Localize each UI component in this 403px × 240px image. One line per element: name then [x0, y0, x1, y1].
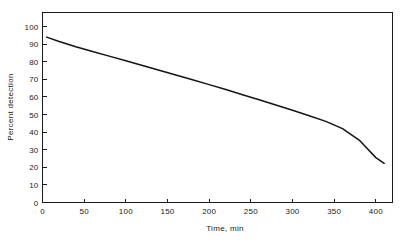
y-axis-tick-label: 60 [29, 93, 39, 102]
y-axis-tick-labels: 0102030405060708090100 [25, 23, 39, 208]
y-axis-tick-label: 90 [29, 40, 39, 49]
x-axis-title: Time, min [206, 224, 244, 233]
y-axis-tick-label: 100 [25, 23, 39, 32]
y-axis-tick-label: 30 [29, 146, 39, 155]
y-axis-ticks [43, 27, 47, 203]
x-axis-tick-labels: 050100150200250300350400 [40, 207, 383, 216]
y-axis-tick-label: 50 [29, 111, 39, 120]
x-axis-tick-label: 200 [202, 207, 216, 216]
x-axis-tick-label: 400 [369, 207, 383, 216]
x-axis-tick-label: 250 [244, 207, 258, 216]
x-axis-tick-label: 350 [327, 207, 341, 216]
y-axis-tick-label: 80 [29, 58, 39, 67]
y-axis-tick-label: 0 [34, 199, 39, 208]
data-series-group [47, 37, 385, 163]
x-axis-tick-label: 100 [119, 207, 133, 216]
y-axis-tick-label: 70 [29, 75, 39, 84]
chart-figure: 0102030405060708090100 05010015020025030… [0, 0, 403, 240]
y-axis-tick-label: 20 [29, 163, 39, 172]
y-axis-tick-label: 10 [29, 181, 39, 190]
chart-svg: 0102030405060708090100 05010015020025030… [0, 0, 403, 240]
x-axis-tick-label: 50 [80, 207, 90, 216]
data-line-percent-detection [47, 37, 385, 163]
y-axis-title: Percent detection [6, 73, 15, 140]
x-axis-ticks [43, 199, 376, 203]
x-axis-tick-label: 300 [286, 207, 300, 216]
x-axis-tick-label: 0 [40, 207, 45, 216]
x-axis-tick-label: 150 [161, 207, 175, 216]
plot-frame-border [43, 13, 393, 203]
y-axis-tick-label: 40 [29, 128, 39, 137]
plot-frame [43, 13, 393, 203]
